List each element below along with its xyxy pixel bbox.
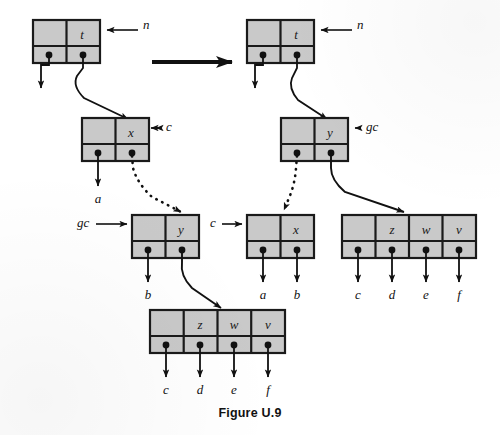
leaf-label-after-c: c [355, 287, 361, 302]
edge-after-y-left-to-x-dotted [284, 156, 297, 210]
leaf-label-before-f: f [266, 382, 272, 397]
edge-before-x-right-to-y-dotted [132, 156, 181, 212]
figure-container: t n x [0, 0, 500, 435]
node-cell-after-z: z [388, 222, 394, 237]
leaf-label-before-d: d [197, 382, 204, 397]
node-after-y: y [281, 118, 348, 161]
node-label-before-y: y [176, 222, 184, 237]
node-after-t: t [247, 20, 314, 63]
node-before-zwv: z w v [150, 310, 285, 353]
pointer-label-after-n: n [357, 17, 364, 32]
node-before-x: x [82, 118, 149, 161]
node-after-x: x [247, 215, 314, 258]
leaf-label-before-b: b [145, 287, 152, 302]
node-label-before-t: t [80, 27, 84, 42]
leaf-label-after-e: e [423, 287, 429, 302]
after-panel: t n y gc [210, 17, 476, 302]
node-label-before-x: x [127, 125, 134, 140]
pointer-label-before-gc: gc [77, 215, 90, 230]
figure-caption: Figure U.9 [0, 406, 500, 420]
pointer-label-after-c: c [210, 215, 216, 230]
leaf-label-after-f: f [457, 287, 463, 302]
node-label-after-y: y [325, 125, 333, 140]
before-panel: t n x [33, 17, 285, 397]
node-cell-before-v: v [265, 317, 271, 332]
leaf-label-before-e: e [231, 382, 237, 397]
node-cell-after-v: v [456, 222, 462, 237]
leaf-label-after-d: d [389, 287, 396, 302]
node-label-after-x: x [292, 222, 299, 237]
node-label-after-t: t [294, 27, 298, 42]
leaf-label-before-a: a [95, 191, 102, 206]
pointer-diagram: t n x [0, 0, 500, 435]
pointer-label-before-c: c [166, 119, 172, 134]
edge-after-t-right-to-y [291, 55, 327, 119]
node-cell-before-w: w [230, 317, 239, 332]
pointer-label-before-n: n [143, 17, 150, 32]
node-before-t: t [33, 20, 100, 63]
leaf-label-before-c: c [163, 382, 169, 397]
node-after-zwv: z w v [342, 215, 476, 258]
leaf-label-after-a: a [260, 287, 267, 302]
node-cell-after-w: w [422, 222, 431, 237]
edge-before-t-right-to-x [76, 55, 128, 119]
leaf-label-after-b: b [294, 287, 301, 302]
node-before-y: y [132, 215, 199, 258]
pointer-label-after-gc: gc [366, 119, 379, 134]
node-cell-before-z: z [196, 317, 202, 332]
